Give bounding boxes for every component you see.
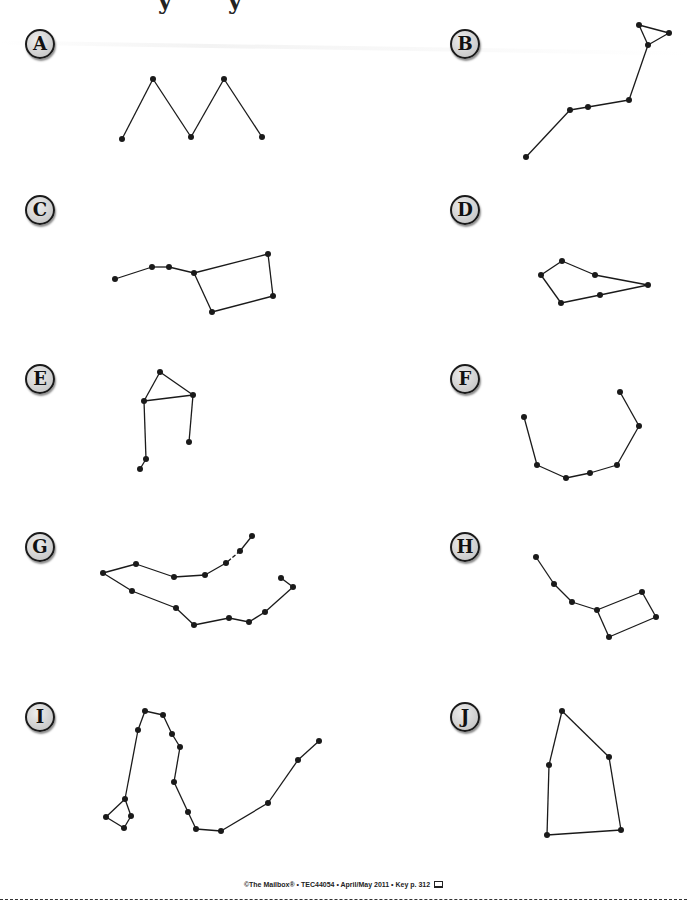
star-dot: [544, 832, 550, 838]
star-dot: [121, 825, 127, 831]
constellation-line: [103, 573, 132, 591]
star-dot: [166, 264, 172, 270]
constellation-line: [136, 564, 174, 577]
star-dot: [290, 584, 296, 590]
constellation-line: [617, 426, 639, 465]
star-dot: [246, 619, 252, 625]
constellation-line: [541, 275, 561, 303]
star-dot: [585, 104, 591, 110]
star-dot: [592, 272, 598, 278]
badge-f: F: [450, 364, 480, 394]
star-dot: [249, 533, 255, 539]
constellation-line: [265, 587, 293, 612]
star-dot: [559, 708, 565, 714]
star-dot: [546, 762, 552, 768]
star-dot: [237, 548, 243, 554]
cut-line-divider: [0, 899, 687, 900]
constellation-d: [538, 258, 651, 306]
star-dot: [160, 712, 166, 718]
star-dot: [141, 398, 147, 404]
footer-credit: ©The Mailbox® • TEC44054 • April/May 201…: [0, 881, 687, 888]
badge-letter: H: [456, 538, 473, 556]
star-dot: [597, 292, 603, 298]
star-dot: [103, 814, 109, 820]
constellation-line: [572, 602, 597, 610]
constellation-line: [298, 741, 319, 760]
star-dot: [173, 605, 179, 611]
star-dot: [112, 276, 118, 282]
constellation-line: [176, 608, 194, 625]
star-dot: [645, 282, 651, 288]
star-dot: [157, 369, 163, 375]
badge-e: E: [25, 364, 55, 394]
constellation-line: [541, 261, 562, 275]
constellation-line: [174, 575, 205, 577]
constellation-h: [533, 554, 659, 640]
constellation-line: [174, 747, 180, 782]
star-dot: [534, 462, 540, 468]
star-dot: [618, 827, 624, 833]
constellation-line: [122, 79, 153, 139]
star-dot: [567, 107, 573, 113]
star-dot: [594, 607, 600, 613]
constellation-line: [191, 79, 224, 137]
constellation-line: [547, 830, 621, 835]
star-dot: [191, 270, 197, 276]
star-dot: [265, 251, 271, 257]
constellation-line: [609, 757, 621, 830]
constellation-line: [648, 33, 669, 45]
constellation-e: [137, 369, 196, 472]
badge-letter: B: [457, 35, 472, 53]
star-dot: [150, 76, 156, 82]
star-dot: [316, 738, 322, 744]
star-dot: [533, 554, 539, 560]
constellation-line: [554, 584, 572, 602]
constellation-line: [590, 465, 617, 473]
star-dot: [143, 456, 149, 462]
constellation-line: [174, 782, 188, 812]
star-dot: [666, 30, 672, 36]
constellation-line: [642, 592, 656, 617]
star-dot: [606, 634, 612, 640]
constellation-line: [562, 261, 595, 275]
star-dot: [209, 309, 215, 315]
constellation-line: [132, 591, 176, 608]
badge-letter: G: [32, 538, 47, 556]
badge-d: D: [450, 195, 480, 225]
star-dot: [119, 136, 125, 142]
constellation-line: [163, 715, 172, 734]
constellation-line: [588, 100, 629, 107]
constellation-line: [212, 296, 273, 312]
star-dot: [636, 22, 642, 28]
star-dot: [606, 754, 612, 760]
star-dot: [191, 622, 197, 628]
star-dot: [569, 599, 575, 605]
constellation-line: [153, 79, 191, 137]
constellation-line: [629, 45, 648, 100]
star-dot: [226, 615, 232, 621]
constellation-c: [112, 251, 276, 315]
constellation-canvas: [0, 0, 687, 907]
constellation-line: [144, 372, 160, 401]
constellation-line: [597, 610, 609, 637]
badge-h: H: [450, 532, 480, 562]
constellation-f: [521, 389, 642, 481]
star-dot: [218, 828, 224, 834]
star-dot: [559, 258, 565, 264]
constellation-line: [224, 79, 262, 137]
constellation-line: [125, 730, 138, 799]
constellation-line: [205, 563, 226, 575]
star-dot: [262, 609, 268, 615]
star-dot: [639, 589, 645, 595]
star-dot: [278, 575, 284, 581]
constellation-line: [526, 110, 570, 157]
badge-letter: D: [457, 201, 473, 219]
constellation-line: [547, 765, 549, 835]
star-dot: [645, 42, 651, 48]
star-dot: [636, 423, 642, 429]
constellation-line: [106, 817, 124, 828]
constellation-g: [100, 533, 296, 628]
badge-j: J: [450, 702, 480, 732]
constellation-line: [562, 711, 609, 757]
constellation-line: [600, 285, 648, 295]
